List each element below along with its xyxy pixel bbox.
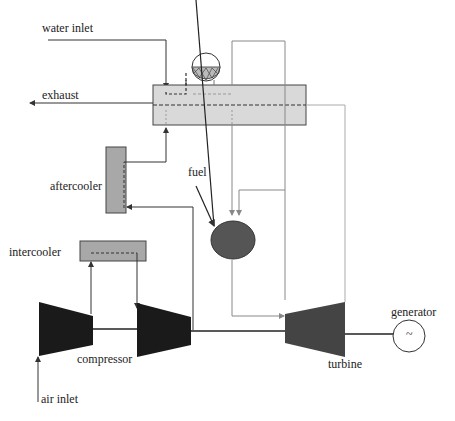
turbine (285, 302, 345, 357)
aftercooler-out-line (124, 128, 166, 162)
compressor-low-pressure (39, 302, 93, 356)
compressor-high-pressure (137, 303, 191, 357)
heat-recovery-unit (153, 85, 306, 125)
steam-drum (186, 53, 220, 85)
steam-line (232, 41, 285, 300)
aftercooler (106, 147, 126, 213)
water-inlet-line (48, 40, 166, 88)
air-inlet-label: air inlet (41, 392, 79, 406)
combustor-to-turbine (232, 260, 284, 316)
combustor (211, 221, 255, 259)
generator-symbol: ~ (406, 327, 413, 341)
exhaust-return-line (306, 105, 345, 302)
compressor-label: compressor (77, 352, 132, 366)
turbine-label: turbine (328, 357, 362, 371)
generator-label: generator (391, 305, 436, 319)
water-inlet-label: water inlet (42, 21, 94, 35)
intercooler-label: intercooler (9, 245, 61, 259)
intercooler (80, 241, 146, 261)
steam-to-combustor-2 (239, 190, 285, 215)
exhaust-label: exhaust (42, 88, 79, 102)
aftercooler-label: aftercooler (50, 179, 102, 193)
fuel-label: fuel (188, 165, 207, 179)
diagram-canvas: water inlet exhaust aftercooler fuel int… (0, 0, 455, 421)
